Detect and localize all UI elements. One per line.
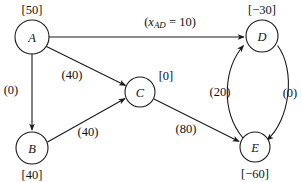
supply-label-c: [0]: [159, 69, 174, 83]
node-a-label: A: [27, 31, 36, 45]
node-e[interactable]: E: [240, 132, 270, 162]
edge-label-a-b: (0): [4, 83, 19, 97]
supply-label-d: [−30]: [248, 3, 276, 17]
supply-label-e: [−60]: [241, 167, 269, 181]
supply-label-b: [40]: [22, 168, 43, 182]
edge-a-c: [47, 47, 126, 86]
node-d-label: D: [256, 30, 266, 44]
network-diagram-canvas: A B C D E [50] [40] [0] [−30] [−60] (xAD…: [0, 0, 302, 182]
edge-label-a-c: (40): [62, 68, 83, 82]
node-d[interactable]: D: [246, 20, 278, 52]
graph-svg: A B C D E [50] [40] [0] [−30] [−60] (xAD…: [0, 0, 302, 182]
node-a[interactable]: A: [15, 20, 49, 54]
node-c-label: C: [136, 86, 145, 100]
node-e-label: E: [250, 141, 259, 155]
edge-label-d-e: (0): [283, 86, 298, 100]
node-b-label: B: [28, 142, 36, 156]
edge-label-c-e: (80): [176, 122, 197, 136]
edge-label-b-c: (40): [78, 125, 99, 139]
node-b[interactable]: B: [16, 132, 48, 164]
edge-label-a-d-eq: = 10): [166, 15, 196, 29]
edge-label-e-d: (20): [210, 85, 231, 99]
node-c[interactable]: C: [125, 77, 155, 107]
edge-label-a-d-sub: AD: [153, 20, 166, 30]
edge-label-a-d: (xAD = 10): [144, 15, 196, 30]
edge-c-e: [154, 99, 239, 142]
supply-label-a: [50]: [22, 3, 43, 17]
